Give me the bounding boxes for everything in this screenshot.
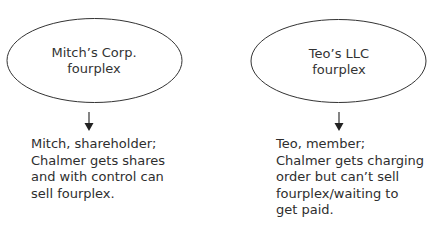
teo-note: Teo, member; Chalmer gets charging order… — [276, 136, 424, 219]
teo-llc-label-line-1: Teo’s LLC — [279, 46, 399, 62]
teo-note-line: get paid. — [276, 202, 424, 219]
teo-note-line: Teo, member; — [276, 136, 424, 153]
mitch-note-line: and with control can — [31, 169, 165, 186]
teo-note-line: Chalmer gets charging — [276, 153, 424, 170]
teo-note-line: order but can’t sell — [276, 169, 424, 186]
mitch-note-line: sell fourplex. — [31, 186, 165, 203]
mitch-corp-label: Mitch’s Corp. fourplex — [34, 45, 154, 77]
mitch-corp-label-line-2: fourplex — [34, 61, 154, 77]
mitch-arrow-icon — [85, 112, 94, 131]
mitch-note-line: Chalmer gets shares — [31, 153, 165, 170]
teo-arrow-icon — [335, 112, 344, 131]
mitch-corp-label-line-1: Mitch’s Corp. — [34, 45, 154, 61]
teo-note-line: fourplex/waiting to — [276, 186, 424, 203]
mitch-note-line: Mitch, shareholder; — [31, 136, 165, 153]
teo-llc-label-line-2: fourplex — [279, 62, 399, 78]
teo-llc-label: Teo’s LLC fourplex — [279, 46, 399, 78]
mitch-note: Mitch, shareholder; Chalmer gets shares … — [31, 136, 165, 202]
